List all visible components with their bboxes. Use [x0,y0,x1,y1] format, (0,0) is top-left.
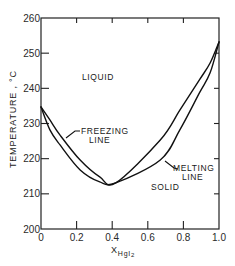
y-tick-label: 250 [23,48,40,59]
phase-diagram-chart: 200210220230240250260 00.20.40.60.81.0 L… [0,0,235,266]
x-axis-label-sub2: 2 [131,252,135,258]
y-tick-label: 260 [23,13,40,24]
x-tick-label: 0.8 [176,232,190,243]
x-axis-label: XHgI2 [111,245,135,258]
y-tick-label: 210 [23,188,40,199]
y-axis-label: TEMPERATURE , °C [8,70,18,168]
freezing-line-label-line: LINE [89,135,110,145]
y-tick-label: 220 [23,153,40,164]
x-tick-label: 0.2 [70,232,84,243]
x-axis-ticks: 00.20.40.60.81.0 [38,18,226,243]
liquid-region-label: LIQUID [82,72,114,82]
x-tick-label: 0 [38,232,44,243]
plot-frame [41,18,219,229]
freezing-line-leader [66,131,80,138]
x-tick-label: 0.6 [141,232,155,243]
x-axis-label-main: X [111,245,118,255]
melting-line-label-line: LINE [182,172,203,182]
svg-text:XHgI2: XHgI2 [111,245,135,258]
y-tick-label: 230 [23,118,40,129]
y-tick-label: 240 [23,83,40,94]
x-axis-label-sub: HgI [118,250,131,258]
solid-region-label: SOLID [151,182,180,192]
x-tick-label: 0.4 [105,232,119,243]
x-tick-label: 1.0 [212,232,226,243]
